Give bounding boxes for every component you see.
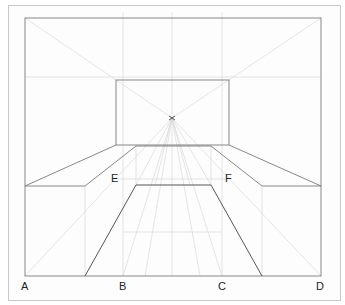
construction-lines [25,12,321,276]
main-lines [25,18,321,276]
label-d: D [316,281,324,292]
label-b: B [119,281,126,292]
label-e: E [111,173,118,184]
label-a: A [21,281,28,292]
perspective-drawing [0,0,345,305]
label-f: F [225,173,232,184]
label-c: C [218,281,226,292]
center-trapezoid [85,185,262,276]
